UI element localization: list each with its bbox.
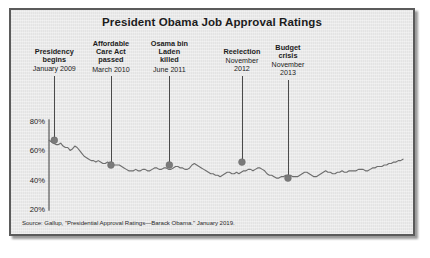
chart-plot-area <box>11 10 413 234</box>
annotation-final-approval: Final approvalJanuary 2017 <box>414 48 415 74</box>
marker-aca-passed <box>108 162 115 169</box>
chart-figure-frame: President Obama Job Approval Ratings Pre… <box>9 8 415 236</box>
approval-line-series <box>49 140 403 178</box>
marker-reelection <box>239 159 246 166</box>
source-note: Source: Gallup, "Presidential Approval R… <box>22 219 235 226</box>
annotation-label-final-approval: Final approval <box>414 48 415 64</box>
marker-budget-crisis <box>285 175 292 182</box>
annotation-date-final-approval: January 2017 <box>414 66 415 74</box>
chart-inner: President Obama Job Approval Ratings Pre… <box>11 10 413 234</box>
event-markers <box>51 137 415 182</box>
marker-osama-killed <box>166 162 173 169</box>
marker-presidency-begins <box>51 137 58 144</box>
